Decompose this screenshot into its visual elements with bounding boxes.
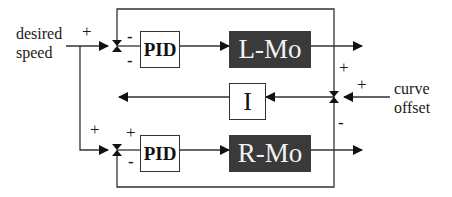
pid-block-top: PID <box>140 31 180 68</box>
desired-speed-label-line1: desired <box>16 25 62 42</box>
integrator-block: I <box>229 83 266 120</box>
left-motor-block: L-Mo <box>229 31 311 68</box>
sign-curve-offset-plus: + <box>357 76 367 93</box>
sign-right-junction-upper: + <box>339 59 349 76</box>
sign-top-junction-lower: - <box>127 52 133 69</box>
right-motor-block: R-Mo <box>229 135 311 172</box>
sign-desired-speed-plus: + <box>82 23 92 40</box>
curve-offset-label-line2: offset <box>394 99 430 116</box>
curve-offset-label-line1: curve <box>394 80 430 97</box>
sign-bottom-junction-lower: - <box>128 153 134 170</box>
sign-right-junction-lower: - <box>338 114 344 131</box>
pid-block-bottom: PID <box>140 135 180 172</box>
sign-bottom-junction-upper: + <box>126 124 136 141</box>
sign-bottom-branch-plus: + <box>90 121 100 138</box>
sign-top-junction-upper: - <box>127 28 133 45</box>
block-diagram-lines <box>0 0 452 197</box>
desired-speed-label-line2: speed <box>16 44 52 61</box>
